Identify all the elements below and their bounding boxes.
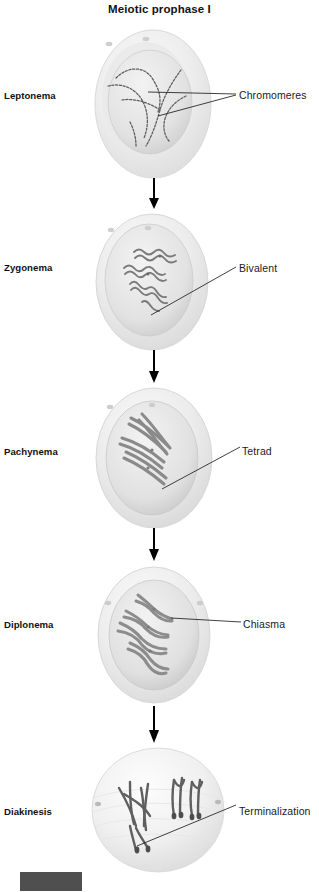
zygonema-cell-svg bbox=[86, 210, 221, 355]
cell-illustration-zygonema bbox=[86, 210, 221, 355]
stage-leptonema: Leptonema bbox=[0, 0, 319, 190]
stage-zygonema: Zygonema bbox=[0, 205, 319, 355]
pachynema-cell-svg bbox=[86, 384, 226, 534]
stage-pachynema: Pachynema bbox=[0, 382, 319, 532]
stage-diplonema: Diplonema bbox=[0, 558, 319, 708]
callout-terminalization: Terminalization bbox=[239, 805, 311, 817]
caption-color-swatch bbox=[20, 872, 82, 891]
stage-label-pachynema: Pachynema bbox=[4, 446, 80, 457]
stage-label-leptonema: Leptonema bbox=[4, 90, 80, 101]
callout-chromomeres: Chromomeres bbox=[239, 89, 307, 101]
diplonema-cell-svg bbox=[86, 561, 226, 709]
stage-label-diplonema: Diplonema bbox=[4, 619, 80, 630]
cell-illustration-leptonema bbox=[86, 26, 221, 181]
flow-arrow-3 bbox=[144, 528, 164, 562]
leptonema-cell-svg bbox=[86, 26, 221, 181]
callout-chiasma: Chiasma bbox=[243, 618, 285, 630]
caption-text bbox=[92, 884, 317, 892]
stage-label-zygonema: Zygonema bbox=[4, 262, 80, 273]
flow-arrow-4 bbox=[144, 706, 164, 744]
meiotic-prophase-figure: Meiotic prophase I Leptonema bbox=[0, 0, 319, 892]
cell-illustration-diakinesis bbox=[86, 742, 246, 882]
cell-illustration-diplonema bbox=[86, 561, 226, 709]
flow-arrow-2 bbox=[144, 350, 164, 384]
callout-bivalent: Bivalent bbox=[239, 262, 277, 274]
callout-tetrad: Tetrad bbox=[242, 445, 272, 457]
stage-diakinesis: Diakinesis bbox=[0, 742, 319, 892]
cell-illustration-pachynema bbox=[86, 384, 226, 534]
stage-label-diakinesis: Diakinesis bbox=[4, 806, 80, 817]
diakinesis-cell-svg bbox=[86, 742, 246, 882]
